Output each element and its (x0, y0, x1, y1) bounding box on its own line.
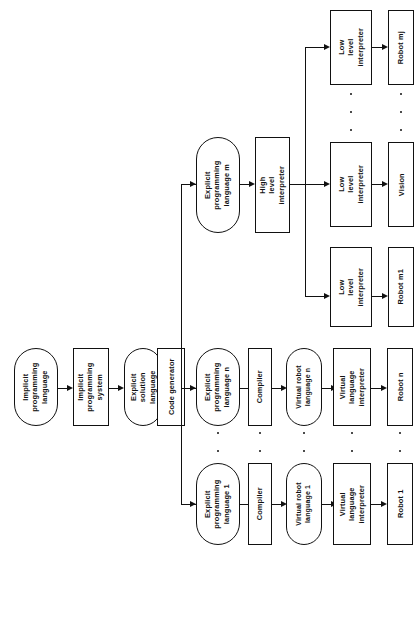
node-label: Robot m1 (396, 269, 405, 304)
node-label: Virtual robotlanguage n (295, 365, 313, 408)
node-compiler-n[interactable]: Compiler (248, 348, 272, 426)
node-label: Lowlevelinterpreter (337, 165, 365, 204)
node-label: Virtual robotlanguage 1 (295, 482, 313, 525)
node-label: Explicitprogramminglanguage m (204, 160, 232, 209)
node-implicit-programming-system[interactable]: Implicitprogrammingsystem (73, 348, 109, 426)
node-robot-mj[interactable]: Robot mj (388, 10, 414, 85)
node-label: Compiler (255, 487, 264, 520)
node-robot-1[interactable]: Robot 1 (387, 463, 413, 545)
node-label: Explicitsolutionlanguage (129, 370, 157, 404)
node-robot-m1[interactable]: Robot m1 (388, 247, 414, 327)
node-label: Compiler (255, 370, 264, 403)
node-label: Implicitprogramminglanguage (22, 362, 50, 411)
node-compiler-1[interactable]: Compiler (248, 463, 272, 545)
node-label: Explicitprogramminglanguage n (204, 362, 232, 411)
node-label: Highlevelinterpreter (258, 166, 286, 205)
connector-epl-bus (181, 184, 182, 504)
node-label: Robot n (395, 373, 404, 402)
node-label: Explicitprogramminglanguage 1 (204, 479, 232, 528)
node-label: Vision (396, 173, 405, 196)
connector-lli-bus (305, 47, 306, 297)
node-label: Robot mj (396, 31, 405, 64)
ellipsis-lli-upper (350, 93, 353, 131)
node-explicit-programming-language-n[interactable]: Explicitprogramminglanguage n (196, 348, 240, 426)
flowchart-diagram: Lowlevelinterpreter Robot mj Lowlevelint… (0, 0, 419, 619)
node-label: Lowlevelinterpreter (337, 28, 365, 67)
arrowhead-epl-m (190, 181, 196, 187)
node-label: Virtuallanguageinterpreter (338, 485, 366, 524)
node-implicit-programming-language[interactable]: Implicitprogramminglanguage (14, 348, 58, 426)
node-low-level-interpreter-vision[interactable]: Lowlevelinterpreter (330, 142, 372, 227)
node-label: Code generator (166, 359, 175, 416)
node-low-level-interpreter-mj[interactable]: Lowlevelinterpreter (330, 10, 372, 85)
node-vision[interactable]: Vision (388, 142, 414, 227)
node-label: Lowlevelinterpreter (337, 268, 365, 307)
node-low-level-interpreter-m1[interactable]: Lowlevelinterpreter (330, 247, 372, 327)
node-robot-n[interactable]: Robot n (387, 348, 413, 426)
node-explicit-programming-language-m[interactable]: Explicitprogramminglanguage m (196, 137, 240, 233)
node-virtual-language-interpreter-1[interactable]: Virtuallanguageinterpreter (333, 463, 371, 545)
node-virtual-language-interpreter-n[interactable]: Virtuallanguageinterpreter (333, 348, 371, 426)
ellipsis-robot-upper (400, 93, 403, 131)
node-virtual-robot-language-1[interactable]: Virtual robotlanguage 1 (286, 463, 322, 545)
node-high-level-interpreter[interactable]: Highlevelinterpreter (255, 137, 290, 233)
node-virtual-robot-language-n[interactable]: Virtual robotlanguage n (286, 348, 322, 426)
node-label: Virtuallanguageinterpreter (338, 368, 366, 407)
node-explicit-programming-language-1[interactable]: Explicitprogramminglanguage 1 (196, 463, 240, 545)
node-label: Implicitprogrammingsystem (77, 362, 105, 411)
node-label: Robot 1 (395, 490, 404, 519)
